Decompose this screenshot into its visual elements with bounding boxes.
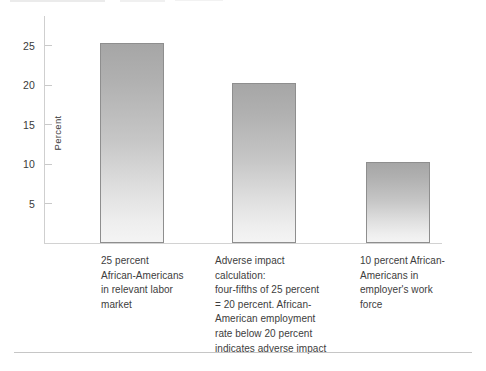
y-tick-15: 15 — [44, 124, 52, 125]
x-axis-line — [44, 243, 442, 244]
y-tick-label: 25 — [23, 40, 35, 52]
scan-artifact-mark — [10, 0, 105, 2]
scan-artifact-mark — [120, 0, 165, 2]
y-tick-mark — [45, 164, 52, 165]
y-tick-label: 15 — [23, 119, 35, 131]
plot-area: Percent 5 10 15 20 25 — [44, 16, 442, 244]
y-tick-25: 25 — [44, 45, 52, 46]
y-tick-20: 20 — [44, 85, 52, 86]
y-tick-mark — [45, 203, 52, 204]
y-tick-mark — [45, 85, 52, 86]
y-tick-mark — [45, 124, 52, 125]
bar-series-3 — [366, 162, 430, 243]
y-tick-label: 10 — [23, 158, 35, 170]
y-tick-label: 20 — [23, 79, 35, 91]
bar-series-1 — [100, 43, 164, 243]
y-tick-5: 5 — [44, 203, 52, 204]
y-tick-mark — [45, 45, 52, 46]
category-label-1: 25 percent African-Americans in relevant… — [101, 254, 213, 312]
y-tick-10: 10 — [44, 164, 52, 165]
y-axis-line — [44, 16, 45, 244]
y-tick-label: 5 — [29, 198, 35, 210]
bar-series-2 — [232, 83, 296, 243]
bar-chart-figure: Percent 5 10 15 20 25 25 percent African… — [0, 0, 486, 371]
footer-divider — [14, 352, 472, 353]
scan-artifact-mark — [175, 0, 223, 1]
y-axis-title: Percent — [52, 116, 63, 151]
category-label-3: 10 percent African- Americans in employe… — [360, 254, 476, 312]
category-label-2: Adverse impact calculation: four-fifths … — [215, 254, 351, 356]
